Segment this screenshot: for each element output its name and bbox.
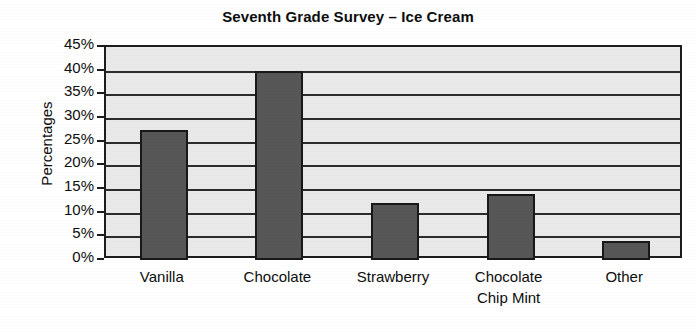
y-tick-label: 20% — [34, 153, 94, 170]
y-tick-mark — [97, 45, 104, 47]
x-axis-label: ChocolateChip Mint — [451, 266, 567, 308]
y-tick-mark — [97, 92, 104, 94]
y-tick-label: 15% — [34, 177, 94, 194]
gridline — [106, 142, 680, 144]
chart-page: Seventh Grade Survey – Ice Cream Percent… — [0, 0, 696, 332]
bar — [602, 241, 650, 260]
gridline — [106, 118, 680, 120]
y-tick-mark — [97, 211, 104, 213]
chart-title: Seventh Grade Survey – Ice Cream — [0, 8, 696, 25]
y-tick-mark — [97, 187, 104, 189]
x-axis-label: Vanilla — [104, 266, 220, 287]
y-tick-label: 45% — [34, 35, 94, 52]
x-label-line: Chocolate — [220, 266, 336, 287]
y-tick-label: 5% — [34, 224, 94, 241]
x-label-line: Vanilla — [104, 266, 220, 287]
y-tick-label: 10% — [34, 201, 94, 218]
plot-area — [104, 45, 682, 258]
y-tick-label: 35% — [34, 82, 94, 99]
gridline — [106, 94, 680, 96]
y-tick-label: 30% — [34, 106, 94, 123]
y-tick-label: 40% — [34, 59, 94, 76]
bar — [487, 194, 535, 260]
x-label-line: Other — [566, 266, 682, 287]
x-axis-label: Strawberry — [335, 266, 451, 287]
bar — [140, 130, 188, 260]
gridline — [106, 71, 680, 73]
y-tick-mark — [97, 258, 104, 260]
gridline — [106, 189, 680, 191]
y-tick-mark — [97, 163, 104, 165]
x-label-line: Strawberry — [335, 266, 451, 287]
y-tick-mark — [97, 69, 104, 71]
y-tick-label: 25% — [34, 130, 94, 147]
bar — [255, 71, 303, 260]
x-axis-label: Other — [566, 266, 682, 287]
x-axis-label: Chocolate — [220, 266, 336, 287]
plot-inner — [106, 47, 680, 256]
y-tick-mark — [97, 234, 104, 236]
x-label-line: Chocolate — [451, 266, 567, 287]
x-label-line: Chip Mint — [451, 287, 567, 308]
y-tick-mark — [97, 116, 104, 118]
y-tick-label: 0% — [34, 248, 94, 265]
bar — [371, 203, 419, 260]
y-tick-mark — [97, 140, 104, 142]
gridline — [106, 165, 680, 167]
